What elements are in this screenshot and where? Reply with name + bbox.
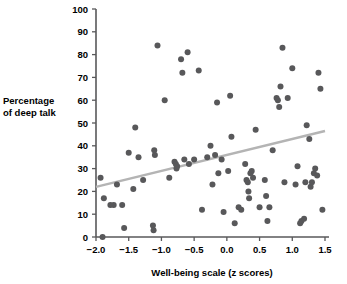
y-tick-label: 30 (77, 163, 88, 174)
y-tick-label: 0 (83, 232, 88, 243)
data-point (319, 207, 325, 213)
trendline-group (96, 131, 325, 187)
data-point (309, 179, 315, 185)
data-point (181, 156, 187, 162)
data-point (245, 188, 251, 194)
data-point (304, 122, 310, 128)
data-point (278, 84, 284, 90)
data-point (263, 193, 269, 199)
data-points-group (98, 42, 326, 240)
y-tick-label: 100 (72, 4, 88, 15)
data-point (212, 152, 218, 158)
data-point (232, 220, 238, 226)
data-point (262, 177, 268, 183)
data-point (101, 195, 107, 201)
y-axis-label-line1: Percentage (3, 95, 54, 106)
data-point (209, 182, 215, 188)
data-point (225, 168, 231, 174)
data-point (266, 204, 272, 210)
x-tick-label: 0.0 (220, 244, 233, 255)
data-point (178, 56, 184, 62)
data-point (132, 125, 138, 131)
data-point (293, 182, 299, 188)
data-point (98, 175, 104, 181)
data-point (179, 70, 185, 76)
data-point (253, 127, 259, 133)
data-point (257, 204, 263, 210)
data-point (312, 166, 318, 172)
data-point (242, 161, 248, 167)
data-point (270, 147, 276, 153)
data-point (199, 207, 205, 213)
data-point (315, 70, 321, 76)
data-point (276, 104, 282, 110)
x-tick-label: −2.0 (87, 244, 106, 255)
data-point (264, 218, 270, 224)
data-point (214, 99, 220, 105)
data-point (130, 186, 136, 192)
data-point (279, 45, 285, 51)
data-point (155, 42, 161, 48)
data-point (306, 136, 312, 142)
data-point (289, 65, 295, 71)
data-point (204, 154, 210, 160)
data-point (191, 156, 197, 162)
data-point (302, 179, 308, 185)
y-tick-label: 70 (77, 72, 88, 83)
data-point (238, 207, 244, 213)
data-point (140, 177, 146, 183)
data-point (281, 179, 287, 185)
data-point (174, 163, 180, 169)
x-tick-label: −1.0 (152, 244, 171, 255)
data-point (119, 202, 125, 208)
scatter-plot-figure: 0102030405060708090100 −2.0−1.5−1.0−0.50… (0, 0, 347, 284)
x-axis-label-pre: Well-being scale ( (151, 267, 232, 278)
x-tick-label: 1.5 (318, 244, 332, 255)
data-point (215, 170, 221, 176)
data-point (100, 234, 106, 240)
data-point (246, 195, 252, 201)
y-tick-group: 0102030405060708090100 (72, 4, 96, 243)
data-point (151, 227, 157, 233)
data-point (250, 175, 256, 181)
data-point (126, 150, 132, 156)
data-point (245, 179, 251, 185)
data-point (314, 172, 320, 178)
data-point (208, 143, 214, 149)
data-point (227, 93, 233, 99)
data-point (185, 49, 191, 55)
data-point (228, 134, 234, 140)
x-axis-label: Well-being scale (z scores) (151, 267, 272, 278)
x-tick-group: −2.0−1.5−1.0−0.50.00.51.01.5 (87, 237, 333, 255)
y-tick-label: 80 (77, 49, 88, 60)
data-point (219, 156, 225, 162)
data-point (295, 163, 301, 169)
y-tick-label: 90 (77, 26, 88, 37)
regression-line (96, 131, 325, 187)
y-tick-label: 20 (77, 186, 88, 197)
x-tick-label: −1.5 (119, 244, 138, 255)
data-point (111, 202, 117, 208)
data-point (114, 182, 120, 188)
x-tick-label: −0.5 (185, 244, 204, 255)
x-tick-label: 1.0 (286, 244, 299, 255)
data-point (221, 209, 227, 215)
data-point (317, 86, 323, 92)
data-point (162, 97, 168, 103)
axes-group (96, 9, 329, 237)
data-point (285, 95, 291, 101)
y-axis-label-line2: of deep talk (3, 107, 57, 118)
data-point (136, 154, 142, 160)
y-tick-label: 40 (77, 140, 88, 151)
data-point (275, 97, 281, 103)
data-point (249, 168, 255, 174)
x-tick-label: 0.5 (253, 244, 267, 255)
x-axis-label-post: scores) (236, 267, 272, 278)
data-point (152, 152, 158, 158)
plot-canvas: 0102030405060708090100 −2.0−1.5−1.0−0.50… (0, 0, 347, 284)
data-point (186, 161, 192, 167)
y-tick-label: 50 (77, 118, 88, 129)
data-point (121, 225, 127, 231)
data-point (196, 68, 202, 74)
data-point (301, 216, 307, 222)
